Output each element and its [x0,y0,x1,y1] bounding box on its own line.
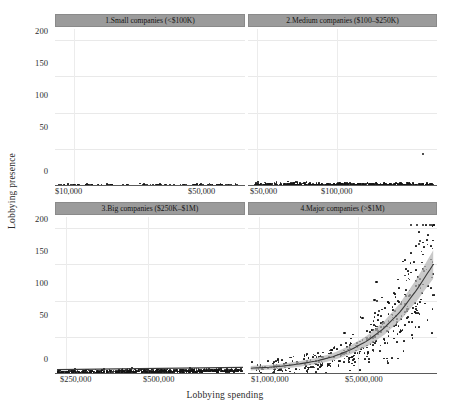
data-point [405,185,407,186]
data-point [195,185,197,186]
data-point [72,185,74,186]
data-point [123,185,125,186]
data-point [192,185,194,186]
data-point [178,185,180,186]
data-point [256,373,258,374]
data-point [65,185,67,186]
data-point [258,185,260,186]
data-point [61,185,63,186]
data-point [371,185,373,186]
data-point [169,185,171,186]
gridline-horizontal [55,40,245,41]
data-point [216,185,218,186]
data-point [224,185,226,186]
data-point [72,185,74,186]
data-point [399,185,401,186]
data-point [320,185,322,186]
data-point [184,185,186,186]
data-point [198,185,200,186]
data-point [372,183,374,185]
data-point [181,185,183,186]
data-point [77,185,79,186]
data-point [169,185,171,186]
data-point [418,185,420,186]
data-point [280,185,282,186]
data-point [87,185,89,186]
data-point [423,185,425,186]
data-point [75,185,77,186]
data-point [154,185,156,186]
data-point [217,185,219,186]
data-point [128,185,130,186]
data-point [291,373,293,374]
x-tick-label: $10,000 [55,187,82,196]
data-point [335,185,337,186]
panel-4-plot-area [248,217,437,374]
data-point [283,185,285,186]
data-point [110,185,112,186]
data-point [128,185,130,186]
data-point [154,185,156,186]
data-point [293,185,295,186]
data-point [416,185,418,186]
data-point [78,185,80,186]
data-point [60,185,62,186]
data-point [308,185,310,186]
data-point [128,185,130,186]
data-point [219,185,221,186]
data-point [95,185,97,186]
x-tick-label: $250,000 [60,375,91,384]
data-point [89,185,91,186]
data-point [430,184,432,186]
data-point [94,185,96,186]
data-point [86,185,88,186]
data-point [158,185,160,186]
data-point [87,185,89,186]
data-point [219,185,221,186]
data-point [276,181,278,183]
data-point [216,185,218,186]
data-point [64,185,66,186]
data-point [85,185,87,186]
data-point [388,185,390,186]
data-point [230,185,232,186]
data-point [384,185,386,186]
data-point [86,185,88,186]
data-point [152,185,154,186]
data-point [412,185,414,186]
data-point [226,185,228,186]
data-point [287,185,289,186]
data-point [64,185,66,186]
data-point [77,185,79,186]
data-point [115,185,117,186]
data-point [411,184,413,186]
data-point [95,185,97,186]
data-point [337,184,339,186]
data-point [85,184,87,186]
y-tick-label: 0 [8,354,48,364]
data-point [109,185,111,186]
data-point [160,185,162,186]
data-point [180,185,182,186]
data-point [417,185,419,186]
data-point [366,185,368,186]
data-point [175,185,177,186]
data-point [184,185,186,186]
data-point [122,185,124,186]
data-point [72,185,74,186]
data-point [321,185,323,186]
data-point [128,185,130,186]
data-point [184,185,186,186]
data-point [273,185,275,186]
data-point [322,185,324,186]
data-point [195,185,197,186]
data-point [153,185,155,186]
data-point [63,185,65,186]
data-point [383,185,385,186]
data-point [99,185,101,186]
data-point [206,185,208,186]
data-point [91,185,93,186]
data-point [388,185,390,186]
data-point [399,185,401,186]
data-point [184,185,186,186]
